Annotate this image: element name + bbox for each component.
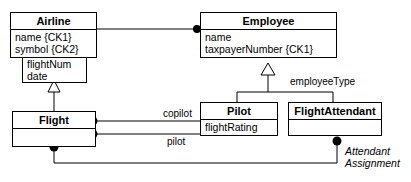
edge-label-copilot: copilot xyxy=(163,108,192,119)
edge-label-attendant-assignment-line2: Assignment xyxy=(345,157,400,169)
edge-label-attendant-assignment-line1: Attendant xyxy=(345,145,390,157)
edge-airline-employee xyxy=(97,25,201,33)
attribute-item: date xyxy=(27,70,82,82)
edge-flight-generalization xyxy=(48,80,60,111)
class-box-flight-attendant[interactable]: FlightAttendant xyxy=(288,102,382,136)
class-name-employee: Employee xyxy=(201,13,336,30)
class-name-flight: Flight xyxy=(13,112,95,129)
class-box-employee[interactable]: Employee name taxpayerNumber {CK1} xyxy=(200,12,337,58)
attribute-item: name {CK1} xyxy=(15,31,92,43)
class-attributes-employee: name taxpayerNumber {CK1} xyxy=(201,30,336,57)
uml-class-diagram-canvas: Airline name {CK1} symbol {CK2} flightNu… xyxy=(0,0,411,182)
class-attributes-airline: name {CK1} symbol {CK2} xyxy=(11,30,96,57)
class-attributes-flight-assoc: flightNum date xyxy=(23,58,86,84)
attribute-item: symbol {CK2} xyxy=(15,43,92,55)
attribute-item: taxpayerNumber {CK1} xyxy=(205,43,332,55)
class-name-airline: Airline xyxy=(11,13,96,30)
attribute-item: name xyxy=(205,31,332,43)
class-box-flight-association-attributes[interactable]: flightNum date xyxy=(22,57,87,83)
class-box-pilot[interactable]: Pilot flightRating xyxy=(200,102,278,136)
edge-label-employee-type: employeeType xyxy=(290,76,355,87)
association-end-dot-flight-attendant xyxy=(333,137,342,146)
class-attributes-pilot: flightRating xyxy=(201,120,277,135)
class-box-airline[interactable]: Airline name {CK1} symbol {CK2} xyxy=(10,12,97,58)
attribute-item: flightRating xyxy=(205,121,273,133)
class-name-flight-attendant: FlightAttendant xyxy=(289,103,381,120)
class-name-pilot: Pilot xyxy=(201,103,277,120)
attribute-item: flightNum xyxy=(27,58,82,70)
edge-label-pilot: pilot xyxy=(167,136,185,147)
generalization-triangle-employee xyxy=(261,63,275,75)
class-box-flight[interactable]: Flight xyxy=(12,111,96,147)
